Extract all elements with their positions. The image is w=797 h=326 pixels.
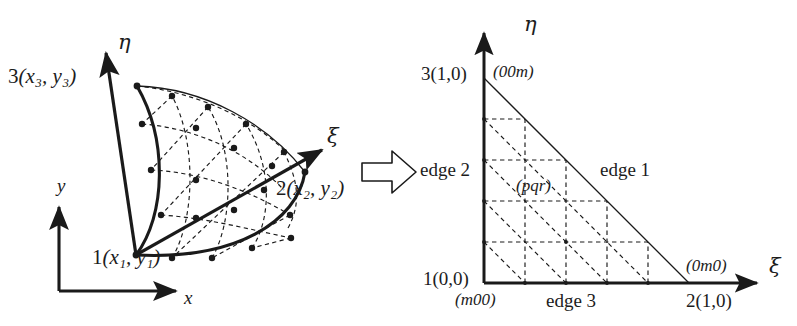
reference-vertex-3-label: 3(1,0) [421,64,467,83]
physical-vertex-3-coords: (x₃, y₃) [19,64,77,88]
element-node [288,235,294,241]
global-y-axis-label: y [57,176,65,195]
element-node [209,255,215,261]
reference-edge-1-label: edge 1 [600,160,650,179]
reference-edge-2-label: edge 2 [420,160,470,179]
local-eta-axis [106,53,136,255]
reference-grid [484,119,648,283]
reference-interior-point-label: (pqr) [516,177,551,194]
reference-vertex-1-barycentric: (m00) [455,291,496,308]
element-node [169,255,175,261]
element-node [287,212,293,218]
element-node [281,149,287,155]
reference-vertex-1-label: 1(0,0) [423,269,469,288]
element-node [302,169,309,176]
physical-vertex-3-number: 3 [8,64,19,88]
element-node [261,187,267,193]
physical-vertex-1-label: 1(x₁, y₁) [92,247,160,268]
physical-vertex-2-label: 2(x₂, y₂) [276,178,344,199]
element-node [158,212,164,218]
global-x-axis-label: x [184,288,192,307]
element-node [243,121,249,127]
element-node [249,245,255,251]
reference-xi-axis-label: ξ [769,256,781,277]
element-node [231,207,237,213]
reference-vertex-3-barycentric: (00m) [493,63,534,80]
right-block-arrow-icon [362,151,416,193]
physical-vertex-1-coords: (x₁, y₁) [103,245,161,269]
physical-vertex-1-number: 1 [92,245,103,269]
physical-eta-axis-label: η [118,32,131,53]
reference-vertex-2-barycentric: (0m0) [686,257,727,274]
element-node [205,104,211,110]
reference-vertex-2-label: 2(1,0) [686,291,732,310]
physical-vertex-2-number: 2 [276,176,287,200]
element-node [169,93,175,99]
element-node [231,145,237,151]
physical-vertex-2-coords: (x₂, y₂) [287,176,345,200]
element-mapping-figure: η ξ 3(x₃, y₃) 1(x₁, y₁) 2(x₂, y₂) y x η … [0,0,797,326]
physical-xi-axis-label: ξ [327,126,339,147]
reference-edge-3-label: edge 3 [546,291,596,310]
element-node [193,177,199,183]
element-node [139,121,145,127]
element-node [148,167,154,173]
reference-hypotenuse [484,78,689,283]
element-node [269,163,275,169]
element-node [134,83,141,90]
element-node [193,215,199,221]
physical-vertex-3-label: 3(x₃, y₃) [8,66,76,87]
reference-eta-axis-label: η [524,14,537,35]
element-node [193,125,199,131]
